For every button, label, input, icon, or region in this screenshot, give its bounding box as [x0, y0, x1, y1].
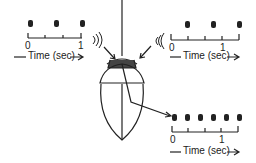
axis-bottom-right	[172, 126, 238, 132]
pulses-top-left	[28, 20, 85, 27]
axis-label-bottom-right: Time (sec)	[183, 146, 230, 156]
sound-wave-icon-left	[93, 32, 102, 48]
pulses-top-right	[185, 21, 242, 28]
axis-label-top-right: Time (sec)	[183, 51, 230, 61]
pulses-bottom-right	[172, 114, 242, 121]
arrow-right-sensor	[140, 46, 151, 58]
tick-0-top-right: 0	[169, 43, 175, 53]
sensor-pointer	[122, 64, 170, 116]
axis-top-left	[28, 33, 82, 38]
tick-1-bottom-right: 1	[219, 135, 225, 145]
arrow-left-sensor	[104, 47, 115, 59]
beetle-diagram	[0, 0, 256, 163]
sound-wave-icon-right	[156, 33, 164, 49]
axis-top-right	[171, 34, 239, 40]
tick-0-bottom-right: 0	[170, 135, 176, 145]
axis-label-top-left: Time (sec)	[28, 51, 75, 61]
tick-1-top-left: 1	[78, 41, 84, 51]
